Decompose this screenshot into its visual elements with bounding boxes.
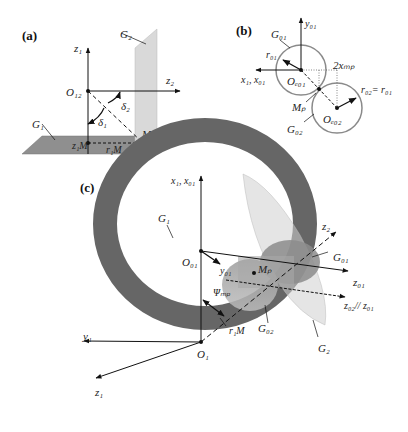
label-z1m: z₁M (71, 140, 88, 151)
arrow-r01 (283, 60, 301, 70)
label-z2: z₂ (165, 74, 174, 86)
label-od01: Oₑ₀₁ (287, 75, 306, 87)
leader-g1-c (167, 225, 173, 238)
point-od01 (299, 68, 303, 72)
label-o12: O₁₂ (66, 86, 82, 98)
point-od02 (335, 106, 339, 110)
label-x1x01-b: x₁, x₀₁ (240, 74, 265, 85)
point-o12 (86, 89, 90, 93)
label-x1x01-c: x₁, x₀₁ (170, 175, 195, 186)
label-r1m: r₁M (106, 144, 122, 155)
label-o01: O₀₁ (182, 256, 198, 268)
label-g2-c: G₂ (318, 342, 330, 354)
label-z02: z₀₂// z₀₁ (343, 300, 374, 311)
panel-b: (b) G₀₁ y₀₁ r₀₁ x₁, x₀₁ Oₑ₀₁ 2xₘₚ r₀₂= r… (236, 18, 392, 135)
label-g2: G₂ (120, 28, 132, 40)
label-g02-b: G₀₂ (287, 123, 303, 135)
label-psi-mp: Ψₘₚ (213, 287, 231, 298)
panel-b-tag: (b) (236, 23, 252, 38)
label-z1: z₁ (73, 42, 82, 54)
label-z2-c: z₂ (321, 220, 330, 232)
label-g02-c: G₀₂ (258, 322, 274, 334)
label-o1: O₁ (197, 348, 209, 360)
label-z01: z₀₁ (352, 276, 365, 288)
label-delta1: δ₁ (98, 116, 107, 128)
label-mp-b: Mₚ (291, 101, 306, 113)
label-g01-b: G₀₁ (271, 28, 287, 40)
arrow-r02 (337, 98, 356, 108)
leader-g2-c (313, 320, 318, 337)
label-y01-c: y₀₁ (219, 265, 231, 276)
panel-a-tag: (a) (22, 28, 37, 43)
label-y1: y₁ (82, 330, 92, 342)
point-o01 (199, 249, 203, 253)
label-y01-b: y₀₁ (304, 18, 316, 29)
panel-c-tag: (c) (80, 180, 94, 195)
label-r02: r₀₂= r₀₁ (361, 84, 392, 95)
arc-delta2 (108, 92, 120, 103)
label-mp-c: Mₚ (257, 263, 272, 275)
label-g01-c: G₀₁ (333, 251, 349, 263)
label-od02: Oₑ₀₂ (323, 113, 342, 125)
point-mp-c (252, 271, 256, 275)
leader-g01-b (280, 40, 290, 48)
label-2xmp: 2xₘₚ (333, 59, 355, 71)
axis-z1-c (96, 342, 201, 378)
label-z1-c: z₁ (94, 386, 103, 398)
leader-g02-b (304, 114, 314, 122)
gear-geometry-figure: (a) G₂ z₁ z₂ O₁₂ δ₂ δ₁ G₁ z₁M r₁M Mₚ (0, 0, 408, 432)
axis-y1 (84, 341, 201, 342)
panel-c: (c) x₁, x₀₁ G₁ (80, 118, 374, 398)
label-r1m-c: r₁M (229, 325, 245, 336)
label-delta2: δ₂ (121, 100, 130, 112)
point-mp-b (317, 87, 321, 91)
label-r01: r₀₁ (266, 49, 277, 60)
point-o1 (199, 340, 203, 344)
label-g1: G₁ (32, 118, 44, 130)
label-g1-c: G₁ (158, 212, 170, 224)
